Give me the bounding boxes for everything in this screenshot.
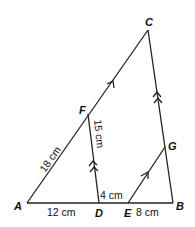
label-eb: 8 cm (136, 206, 159, 218)
triangle-diagram: C F G A D E B 18 cm 15 cm 12 cm 4 cm 8 c… (0, 0, 195, 227)
segment-eg (128, 147, 165, 203)
parallel-mark-fd-1 (89, 161, 97, 166)
parallel-mark-fd-2 (90, 167, 98, 172)
point-f: F (79, 104, 86, 116)
point-c: C (145, 16, 154, 28)
label-fd: 15 cm (92, 119, 107, 149)
label-de: 4 cm (100, 189, 123, 201)
point-e: E (124, 207, 132, 219)
point-a: A (13, 200, 22, 212)
side-ac (27, 30, 148, 203)
label-ad: 12 cm (47, 206, 76, 218)
point-d: D (95, 207, 103, 219)
point-g: G (168, 140, 177, 152)
point-b: B (176, 200, 184, 212)
side-cb (148, 30, 173, 203)
